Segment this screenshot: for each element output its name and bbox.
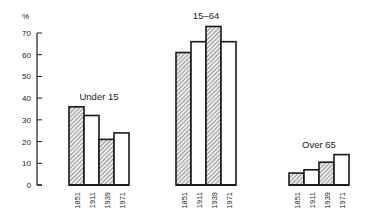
x-tick-label: 1971 [225, 192, 234, 209]
x-tick-label: 1851 [180, 192, 189, 209]
bar [176, 53, 191, 185]
x-tick-label: 1911 [195, 192, 204, 208]
bar [304, 170, 319, 185]
bar [114, 133, 129, 185]
population-age-chart: %010203040506070 1851191119391971Under 1… [0, 0, 366, 221]
x-tick-label: 1939 [103, 192, 112, 209]
y-tick-label: 60 [22, 51, 31, 60]
y-tick-label: 10 [22, 159, 31, 168]
bar [289, 173, 304, 185]
x-tick-label: 1851 [73, 192, 82, 209]
y-tick-label: 0 [27, 181, 32, 190]
x-tick-label: 1971 [338, 192, 347, 209]
bar-groups: 1851191119391971Under 151851191119391971… [69, 10, 349, 208]
y-tick-label: 20 [22, 138, 31, 147]
x-tick-label: 1939 [323, 192, 332, 209]
y-tick-label: 70 [22, 29, 31, 38]
y-axis-unit: % [22, 12, 29, 21]
bar-group: 1851191119391971Under 15 [69, 91, 129, 209]
bar [221, 42, 236, 185]
y-axis: %010203040506070 [22, 12, 42, 190]
y-tick-label: 40 [22, 94, 31, 103]
bar [334, 155, 349, 185]
bar-group: 1851191119391971Over 65 [289, 139, 349, 209]
bar [99, 139, 114, 185]
bar [84, 116, 99, 185]
x-tick-label: 1971 [118, 192, 127, 209]
bar [206, 26, 221, 185]
x-tick-label: 1911 [308, 192, 317, 208]
x-tick-label: 1851 [293, 192, 302, 209]
bar [319, 162, 334, 185]
group-label: Under 15 [79, 91, 118, 102]
y-tick-label: 30 [22, 116, 31, 125]
group-label: 15–64 [193, 10, 219, 21]
x-tick-label: 1911 [88, 192, 97, 208]
bar [69, 107, 84, 185]
y-tick-label: 50 [22, 72, 31, 81]
x-tick-label: 1939 [210, 192, 219, 209]
group-label: Over 65 [302, 139, 336, 150]
bar [191, 42, 206, 185]
bar-group: 185119111939197115–64 [176, 10, 236, 208]
